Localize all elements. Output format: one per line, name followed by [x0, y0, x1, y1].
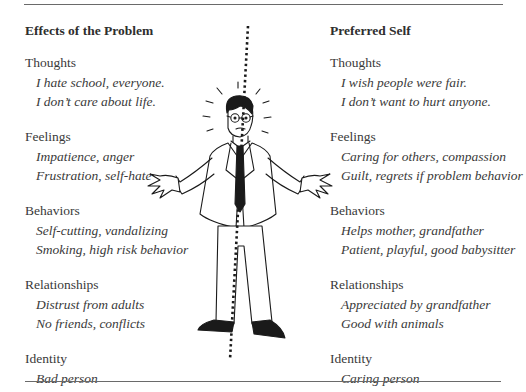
section-label: Relationships	[330, 276, 523, 294]
section-thoughts: Thoughts I wish people were fair. I don’…	[330, 54, 523, 111]
section-item: Caring person	[330, 369, 523, 388]
section-behaviors: Behaviors Helps mother, grandfather Pati…	[330, 202, 523, 259]
top-rule	[24, 4, 503, 5]
section-label: Behaviors	[330, 202, 523, 220]
section-relationships: Relationships Appreciated by grandfather…	[330, 276, 523, 333]
stressed-man-illustration	[140, 20, 340, 380]
section-item: Good with animals	[330, 314, 523, 333]
section-feelings: Feelings Caring for others, compassion G…	[330, 128, 523, 185]
preferred-self-column: Preferred Self Thoughts I wish people we…	[330, 22, 523, 392]
column-title: Preferred Self	[330, 22, 523, 40]
section-item: Helps mother, grandfather	[330, 221, 523, 240]
section-identity: Identity Caring person	[330, 350, 523, 388]
section-label: Identity	[330, 350, 523, 368]
section-item: Patient, playful, good babysitter	[330, 240, 523, 259]
section-label: Thoughts	[330, 54, 523, 72]
section-item: Appreciated by grandfather	[330, 295, 523, 314]
section-item: I don’t want to hurt anyone.	[330, 92, 523, 111]
section-item: I wish people were fair.	[330, 73, 523, 92]
bottom-rule	[25, 381, 501, 382]
section-item: Caring for others, compassion	[330, 147, 523, 166]
section-item: Guilt, regrets if problem behavior	[330, 166, 523, 185]
section-label: Feelings	[330, 128, 523, 146]
